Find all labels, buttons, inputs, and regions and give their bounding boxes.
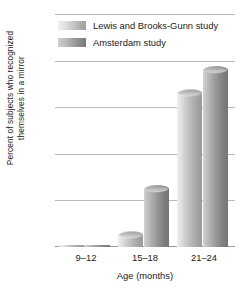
bar-amsterdam-15-18 [144,189,169,247]
bar-cap-inner [145,186,168,192]
legend-swatch-lewis-icon [58,21,86,30]
bar-lewis-21-24 [177,93,202,247]
x-axis-title: Age (months) [55,270,235,281]
bar-body [203,70,228,247]
legend-item-lewis: Lewis and Brooks-Gunn study [58,18,218,32]
bar-lewis-15-18 [118,235,143,247]
y-axis-title-text: Percent of subjects who recognized thems… [5,31,27,165]
legend-item-amsterdam: Amsterdam study [58,35,218,49]
legend-label-amsterdam: Amsterdam study [93,37,166,48]
chart-legend: Lewis and Brooks-Gunn study Amsterdam st… [58,18,218,52]
legend-label-lewis: Lewis and Brooks-Gunn study [93,20,218,31]
bar-cap-inner [204,67,227,73]
bar-lewis-9-12 [59,245,84,247]
x-tick-9-12: 9–12 [56,252,116,263]
y-axis-title: Percent of subjects who recognized thems… [4,0,28,198]
x-axis-tick-labels: 9–12 15–18 21–24 [55,252,235,266]
bar-amsterdam-21-24 [203,70,228,247]
x-tick-21-24: 21–24 [174,252,234,263]
legend-swatch-amsterdam-icon [58,38,86,47]
x-tick-15-18: 15–18 [115,252,175,263]
bar-amsterdam-9-12 [85,245,110,247]
bar-body [59,245,84,247]
bar-chart: Percent of subjects who recognized thems… [0,0,238,288]
bar-body [85,245,110,247]
bar-body [144,189,169,247]
bar-body [177,93,202,247]
